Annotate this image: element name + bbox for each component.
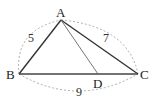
length-label-ab: 5 xyxy=(28,31,34,45)
side-ab xyxy=(19,20,61,74)
length-label-bc: 9 xyxy=(76,85,82,99)
triangle-diagram: A B C D 5 7 9 xyxy=(0,0,160,106)
vertex-label-c: C xyxy=(140,67,149,82)
segment-ad xyxy=(61,20,98,74)
vertex-label-a: A xyxy=(56,5,66,20)
side-ac xyxy=(61,20,138,74)
vertex-label-d: D xyxy=(93,76,102,91)
diagram-svg: A B C D 5 7 9 xyxy=(0,0,160,106)
vertex-label-b: B xyxy=(6,67,15,82)
length-label-ac: 7 xyxy=(103,31,109,45)
